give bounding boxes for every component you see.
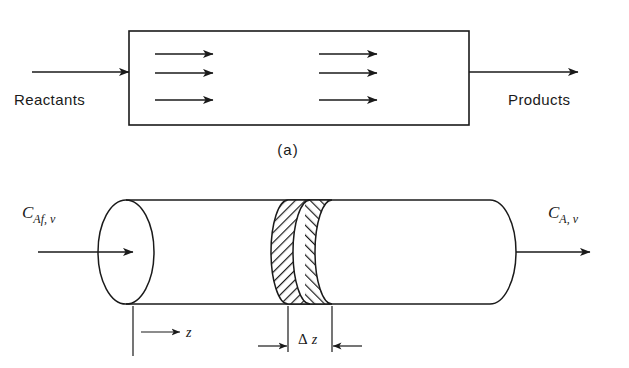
products-label: Products xyxy=(508,91,570,108)
figure-canvas: Reactants Products (a) xyxy=(0,0,629,368)
panel-b-group: CAf, v CA, v z Δz xyxy=(22,196,590,356)
panel-a-caption: (a) xyxy=(277,141,298,158)
reactor-diagram-svg: Reactants Products (a) xyxy=(0,0,629,368)
cylinder-right-cap xyxy=(490,200,516,304)
outlet-concentration-label: CA, v xyxy=(548,203,579,226)
internal-flow-arrows xyxy=(155,54,377,100)
inlet-concentration-label: CAf, v xyxy=(22,203,56,226)
differential-slice xyxy=(270,196,360,310)
panel-a-group: Reactants Products (a) xyxy=(14,31,578,158)
reactor-box xyxy=(129,31,469,125)
delta-z-label: Δz xyxy=(298,331,318,347)
z-label: z xyxy=(185,325,192,340)
reactants-label: Reactants xyxy=(14,91,85,108)
